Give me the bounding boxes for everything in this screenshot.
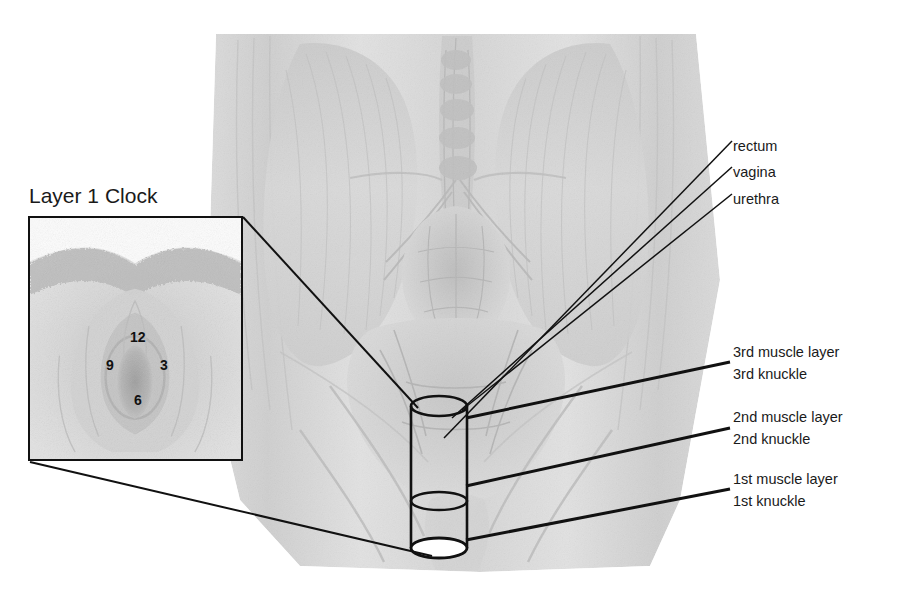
label-group-2nd: 2nd muscle layer 2nd knuckle [733, 407, 843, 450]
clock-number-6: 6 [134, 392, 142, 408]
label-3rd-knuckle: 3rd knuckle [733, 364, 839, 386]
clock-number-12: 12 [130, 329, 146, 345]
label-3rd-muscle-layer: 3rd muscle layer [733, 342, 839, 364]
clock-number-9: 9 [106, 357, 114, 373]
label-rectum: rectum [733, 139, 777, 154]
label-group-1st: 1st muscle layer 1st knuckle [733, 469, 838, 512]
anatomical-figure: rectum vagina urethra 3rd muscle layer 3… [0, 0, 908, 598]
label-group-3rd: 3rd muscle layer 3rd knuckle [733, 342, 839, 385]
label-vagina: vagina [733, 165, 776, 180]
inset-title: Layer 1 Clock [29, 184, 157, 208]
label-1st-muscle-layer: 1st muscle layer [733, 469, 838, 491]
pelvic-anatomy-illustration [180, 30, 732, 575]
label-urethra: urethra [733, 192, 779, 207]
label-1st-knuckle: 1st knuckle [733, 491, 838, 513]
clock-number-3: 3 [160, 357, 168, 373]
label-2nd-muscle-layer: 2nd muscle layer [733, 407, 843, 429]
label-2nd-knuckle: 2nd knuckle [733, 429, 843, 451]
